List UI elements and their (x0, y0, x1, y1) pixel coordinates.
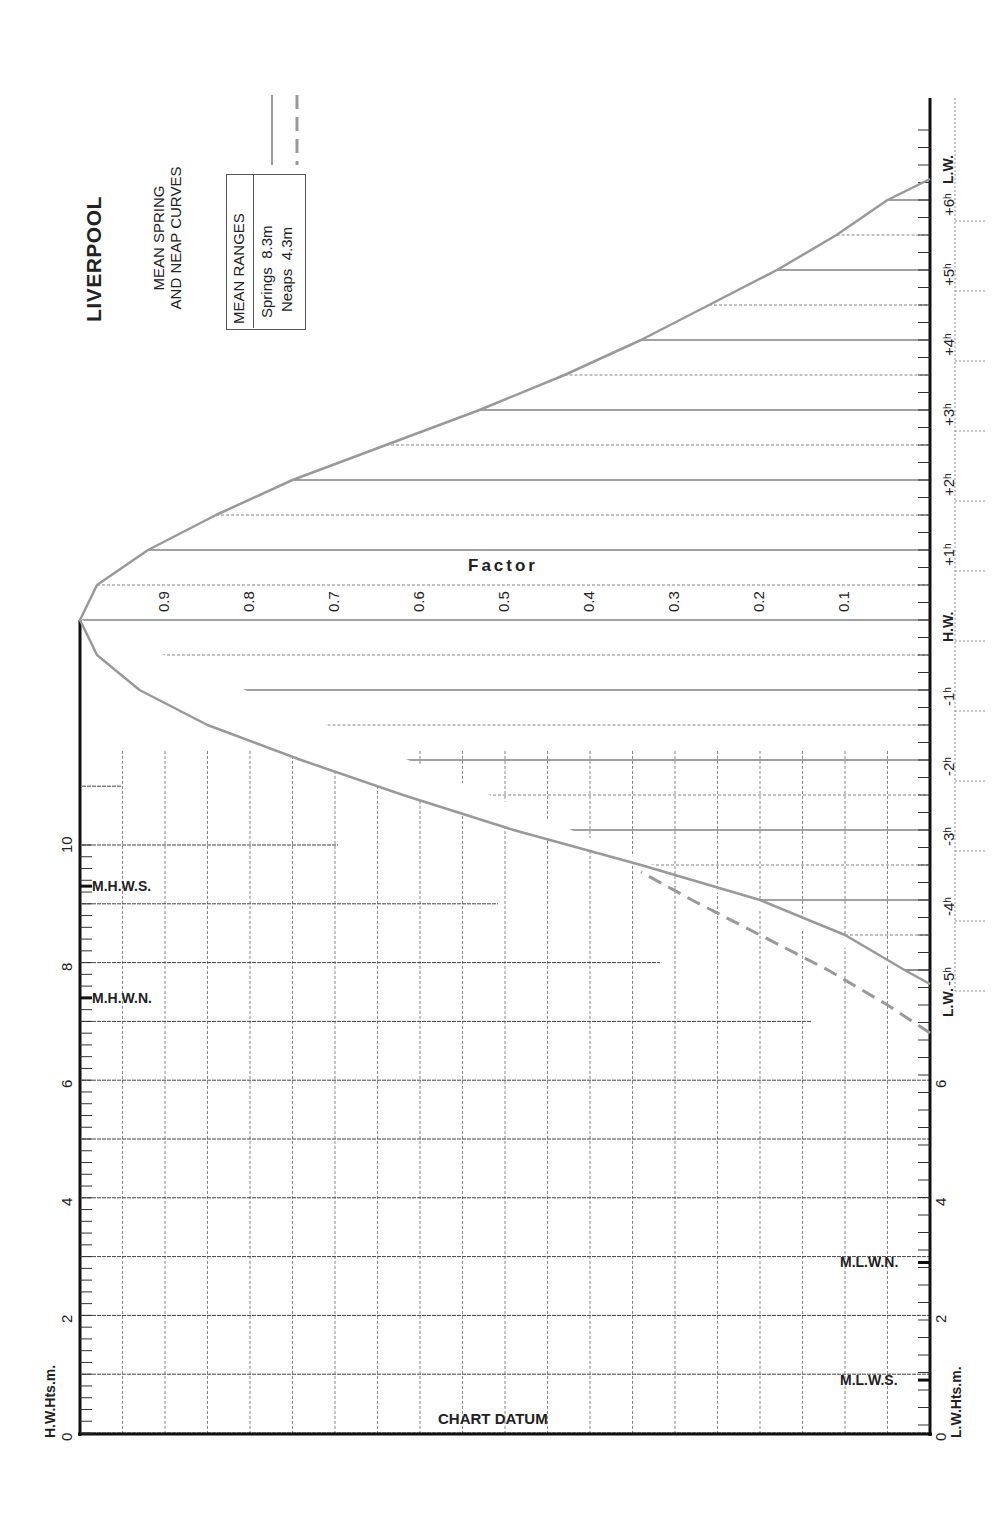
time-label: +5ʰ (940, 263, 957, 286)
factor-tick-label: 0.9 (155, 591, 172, 612)
hw-height-axis-label: H.W.Hts.m. (42, 1365, 58, 1438)
time-label: -1ʰ (940, 687, 957, 706)
lw-height-tick: 2 (932, 1315, 949, 1323)
hw-height-tick: 4 (58, 1197, 75, 1205)
lw-height-tick: 4 (932, 1197, 949, 1205)
hw-height-tick: 2 (58, 1315, 75, 1323)
legend-neaps: Neaps 4.3m (278, 227, 295, 312)
factor-tick-label: 0.4 (580, 591, 597, 612)
time-label: +1ʰ (940, 543, 957, 566)
factor-tick-label: 0.7 (325, 591, 342, 612)
legend-divider (253, 174, 254, 328)
time-label: +4ʰ (940, 333, 957, 356)
lw-height-tick: 6 (932, 1080, 949, 1088)
level-label: M.L.W.S. (840, 1372, 898, 1388)
factor-tick-label: 0.6 (410, 591, 427, 612)
time-label: +6ʰ (940, 193, 957, 216)
time-label: -3ʰ (940, 827, 957, 846)
time-label: L.W. (940, 988, 956, 1017)
time-label: +2ʰ (940, 473, 957, 496)
time-label: -5ʰ (940, 967, 957, 986)
hw-height-tick: 6 (58, 1080, 75, 1088)
legend-springs: Springs 8.3m (258, 225, 275, 318)
time-label: +3ʰ (940, 403, 957, 426)
time-label: H.W. (940, 612, 956, 642)
factor-axis-title: Factor (468, 556, 538, 576)
level-label: M.H.W.N. (92, 990, 152, 1006)
lw-height-axis-label: L.W.Hts.m. (948, 1366, 964, 1438)
level-label: M.L.W.N. (840, 1254, 898, 1270)
time-label: L.W. (940, 155, 956, 184)
factor-tick-label: 0.2 (750, 591, 767, 612)
neaps-curve (641, 872, 930, 1033)
hw-height-tick: 10 (58, 836, 75, 853)
factor-tick-label: 0.3 (665, 591, 682, 612)
time-label: -4ʰ (940, 897, 957, 916)
mask (80, 95, 930, 984)
hw-height-tick: 8 (58, 962, 75, 970)
chart-datum-label: CHART DATUM (438, 1410, 548, 1427)
legend-heading: MEAN RANGES (230, 213, 247, 324)
factor-tick-label: 0.5 (495, 591, 512, 612)
factor-tick-label: 0.8 (240, 591, 257, 612)
time-label: -2ʰ (940, 757, 957, 776)
hw-height-tick: 0 (58, 1433, 75, 1441)
level-label: M.H.W.S. (92, 878, 151, 894)
lw-height-tick: 0 (932, 1433, 949, 1441)
factor-tick-label: 0.1 (835, 591, 852, 612)
chart-title: LIVERPOOL (82, 196, 106, 322)
chart-subtitle: MEAN SPRINGAND NEAP CURVES (150, 158, 184, 318)
